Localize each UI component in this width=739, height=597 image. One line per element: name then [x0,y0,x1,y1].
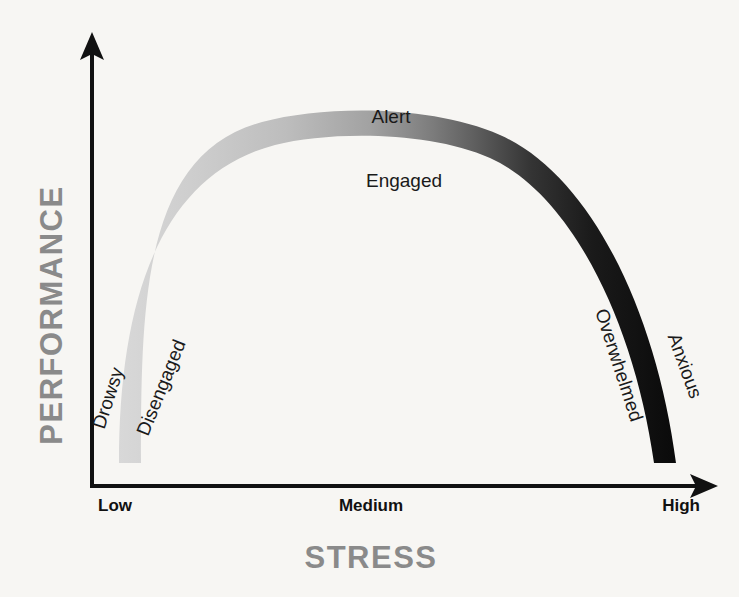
y-axis-title: PERFORMANCE [34,185,69,444]
performance-curve [119,111,676,463]
zone-label-alert: Alert [371,106,411,127]
x-tick-low: Low [98,496,133,515]
x-tick-high: High [662,496,700,515]
zone-label-anxious: Anxious [664,330,707,401]
axis-lines [80,32,718,498]
yerkes-dodson-chart: PERFORMANCE STRESS Low Medium High Drows… [0,0,739,597]
x-axis-title: STRESS [304,540,437,575]
chart-canvas: PERFORMANCE STRESS Low Medium High Drows… [0,0,739,597]
x-tick-medium: Medium [339,496,403,515]
zone-label-engaged: Engaged [366,170,442,191]
